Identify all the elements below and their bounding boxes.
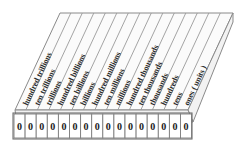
digit-value: 0	[50, 121, 55, 132]
digit-value: 0	[184, 121, 189, 132]
digit-value: 0	[117, 121, 122, 132]
digit-value: 0	[172, 121, 177, 132]
place-value-chart: hundred trillions ten trillions trillion…	[0, 0, 240, 148]
digit-value: 0	[150, 121, 155, 132]
digit-value: 0	[17, 121, 22, 132]
digit-value: 0	[28, 121, 33, 132]
digit-value: 0	[161, 121, 166, 132]
digit-value: 0	[139, 121, 144, 132]
digit-value: 0	[106, 121, 111, 132]
digit-value: 0	[73, 121, 78, 132]
place-value-chart-svg: hundred trillions ten trillions trillion…	[0, 0, 240, 148]
digit-value: 0	[84, 121, 89, 132]
digit-value: 0	[95, 121, 100, 132]
digit-value: 0	[61, 121, 66, 132]
digit-value: 0	[128, 121, 133, 132]
digit-value: 0	[39, 121, 44, 132]
